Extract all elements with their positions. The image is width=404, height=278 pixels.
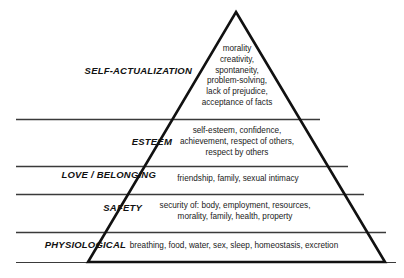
tier-description-esteem: self-esteem, confidence, achievement, re… [142,126,332,158]
tier-description-safety: security of: body, employment, resources… [110,201,360,223]
tier-description-self-actualization: morality creativity, spontaneity, proble… [178,44,296,109]
maslow-hierarchy-diagram: SELF-ACTUALIZATION ESTEEM LOVE / BELONGI… [0,0,404,278]
tier-description-love-belonging: friendship, family, sexual intimacy [128,174,348,185]
tier-description-physiological: breathing, food, water, sex, sleep, home… [84,241,384,252]
tier-label-self-actualization: SELF-ACTUALIZATION [85,66,192,76]
